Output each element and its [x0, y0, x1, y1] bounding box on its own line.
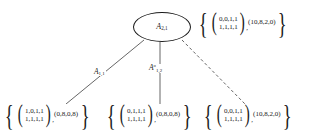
edge-label-a-1-2: Ao1,2 [148, 64, 163, 73]
root-node[interactable]: A2,1 [133, 12, 191, 42]
matrix-row-2: 1,1,1,1 [224, 115, 243, 123]
cost-vector: (10,8,2,0) [253, 111, 280, 118]
edge-right-dashed [182, 40, 245, 104]
close-paren: ) [239, 13, 244, 32]
close-brace: } [81, 104, 90, 126]
open-brace: { [199, 12, 208, 34]
matrix-row-1: 0,0,1,1 [219, 15, 238, 23]
matrix-row-1: 0,0,1,1 [224, 107, 243, 115]
open-paren: ( [212, 13, 217, 32]
diagram-canvas: A2,1 A1,1 Ao1,2 { ( 0,0,1,1 1,1,1,1 ) , … [0, 0, 312, 140]
cost-vector: (0,8,0,8) [54, 111, 78, 118]
open-brace: { [107, 104, 116, 126]
left-leaf-set-expression: { ( 1,0,1,1 1,1,1,1 ) , (0,8,0,8) } [2, 104, 92, 126]
open-brace: { [5, 104, 14, 126]
right-leaf-set-expression: { ( 0,0,1,1 1,1,1,1 ) , (10,8,2,0) } [201, 104, 295, 126]
close-paren: ) [244, 105, 249, 124]
matrix-row-2: 1,1,1,1 [127, 115, 146, 123]
root-set-expression: { ( 0,0,1,1 1,1,1,1 ) , (10,8,2,0) } [196, 12, 290, 34]
open-paren: ( [120, 105, 125, 124]
matrix: 0,1,1,1 1,1,1,1 [127, 107, 146, 124]
open-paren: ( [217, 105, 222, 124]
close-paren: ) [147, 105, 152, 124]
matrix-row-1: 0,1,1,1 [127, 107, 146, 115]
matrix: 0,0,1,1 1,1,1,1 [224, 107, 243, 124]
matrix-row-1: 1,0,1,1 [25, 107, 44, 115]
open-brace: { [204, 104, 213, 126]
matrix: 1,0,1,1 1,1,1,1 [25, 107, 44, 124]
close-paren: ) [45, 105, 50, 124]
cost-vector: (0,8,0,8) [156, 111, 180, 118]
cost-vector: (10,8,2,0) [248, 19, 275, 26]
matrix-row-2: 1,1,1,1 [25, 115, 44, 123]
close-brace: } [278, 12, 287, 34]
matrix: 0,0,1,1 1,1,1,1 [219, 15, 238, 32]
edge-label-a-1-1: A1,1 [93, 68, 106, 76]
open-paren: ( [18, 105, 23, 124]
matrix-row-2: 1,1,1,1 [219, 23, 238, 31]
middle-leaf-set-expression: { ( 0,1,1,1 1,1,1,1 ) , (0,8,0,8) } [104, 104, 194, 126]
root-node-label: A2,1 [156, 23, 167, 32]
close-brace: } [283, 104, 292, 126]
close-brace: } [183, 104, 192, 126]
